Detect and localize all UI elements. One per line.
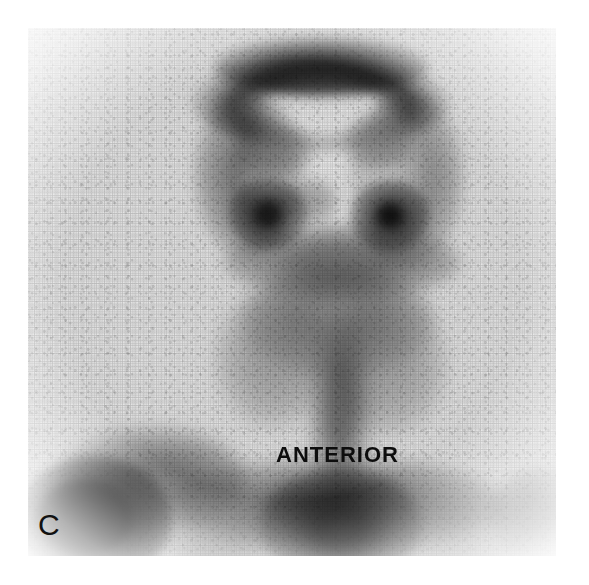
panel-label: C bbox=[38, 510, 60, 540]
film-grain-texture bbox=[28, 28, 556, 556]
scintigraphy-figure: ANTERIOR C bbox=[0, 0, 589, 585]
orientation-label: ANTERIOR bbox=[276, 444, 399, 466]
scan-image-field: ANTERIOR bbox=[28, 28, 556, 556]
